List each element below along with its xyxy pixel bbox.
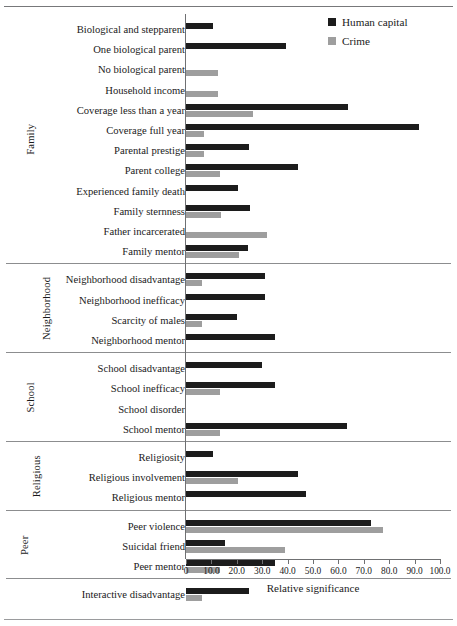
- category-label: School mentor: [25, 418, 185, 442]
- bar-crime: [186, 91, 218, 97]
- bar-human-capital: [186, 23, 213, 29]
- bar-crime: [186, 321, 202, 327]
- group-label-text: School: [0, 382, 72, 412]
- bar-human-capital: [186, 273, 265, 279]
- bar-human-capital: [186, 144, 249, 150]
- x-axis-tick: [364, 559, 365, 564]
- bar-crime: [186, 70, 218, 76]
- bar-human-capital: [186, 382, 275, 388]
- x-axis-tick: [440, 559, 441, 564]
- top-divider-rule: [4, 6, 453, 7]
- bar-crime: [186, 478, 238, 484]
- bar-crime: [186, 131, 204, 137]
- group-separator: [6, 578, 451, 579]
- bar-human-capital: [186, 124, 419, 130]
- bar-crime: [186, 151, 204, 157]
- category-label: Peer mentor: [25, 555, 185, 579]
- chart-row: Religious mentor: [0, 486, 457, 510]
- category-label: Interactive disadvantage: [25, 583, 185, 607]
- group-label-text: Peer: [0, 535, 56, 554]
- x-axis-tick: [288, 559, 289, 564]
- bar-crime: [186, 171, 220, 177]
- group-label: Peer: [16, 515, 34, 576]
- x-axis-tick: [338, 559, 339, 564]
- x-axis-tick: [262, 559, 263, 564]
- bar-human-capital: [186, 294, 265, 300]
- group-separator: [6, 352, 451, 353]
- legend-item-crime: Crime: [328, 35, 408, 47]
- bar-human-capital: [186, 205, 250, 211]
- bar-crime: [186, 430, 220, 436]
- bar-human-capital: [186, 245, 248, 251]
- figure: Biological and stepparentOne biological …: [0, 0, 457, 626]
- legend-label-human-capital: Human capital: [342, 16, 408, 28]
- legend-swatch-black-square-icon: [328, 18, 336, 26]
- group-label-text: Religious: [7, 455, 68, 497]
- x-axis-tick: [389, 559, 390, 564]
- legend-item-human-capital: Human capital: [328, 16, 408, 28]
- bar-human-capital: [186, 471, 298, 477]
- bar-pair: [186, 240, 446, 264]
- group-label-text: Neighborhood: [7, 277, 88, 340]
- bar-pair: [186, 418, 446, 442]
- category-label: Family mentor: [25, 240, 185, 264]
- chart-row: School mentor: [0, 418, 457, 442]
- bar-human-capital: [186, 423, 347, 429]
- bar-human-capital: [186, 185, 238, 191]
- bar-pair: [186, 486, 446, 510]
- bar-human-capital: [186, 104, 348, 110]
- y-axis-line: [185, 14, 186, 559]
- group-label: Family: [16, 18, 34, 260]
- legend-swatch-gray-square-icon: [328, 37, 336, 45]
- bar-human-capital: [186, 334, 275, 340]
- group-label: Religious: [16, 446, 34, 507]
- bar-human-capital: [186, 451, 213, 457]
- legend-label-crime: Crime: [342, 35, 370, 47]
- x-axis-tick: [186, 559, 187, 564]
- x-axis-tick: [237, 559, 238, 564]
- chart-row: Family mentor: [0, 240, 457, 264]
- group-separator: [6, 263, 451, 264]
- bar-crime: [186, 595, 202, 601]
- bar-crime: [186, 252, 239, 258]
- x-axis-tick: [211, 559, 212, 564]
- bottom-divider-rule: [4, 619, 453, 620]
- group-separator: [6, 441, 451, 442]
- plot-area: Biological and stepparentOne biological …: [0, 14, 457, 559]
- x-axis-title: Relative significance: [186, 582, 440, 594]
- bar-human-capital: [186, 314, 237, 320]
- group-label: School: [16, 357, 34, 438]
- legend: Human capital Crime: [328, 16, 408, 54]
- bar-crime: [186, 547, 285, 553]
- bar-crime: [186, 389, 220, 395]
- group-separator: [6, 510, 451, 511]
- bar-human-capital: [186, 43, 286, 49]
- bar-crime: [186, 232, 267, 238]
- bar-crime: [186, 111, 253, 117]
- bar-human-capital: [186, 362, 262, 368]
- group-label-text: Family: [0, 124, 153, 155]
- bar-crime: [186, 212, 221, 218]
- bar-human-capital: [186, 491, 306, 497]
- bar-human-capital: [186, 520, 371, 526]
- bar-crime: [186, 280, 202, 286]
- x-axis-tick-label: 100.0: [423, 566, 457, 576]
- bar-pair: [186, 329, 446, 353]
- bar-human-capital: [186, 540, 225, 546]
- x-axis-tick: [415, 559, 416, 564]
- group-label: Neighborhood: [16, 268, 34, 349]
- bar-crime: [186, 527, 383, 533]
- bar-human-capital: [186, 164, 298, 170]
- x-axis-tick: [313, 559, 314, 564]
